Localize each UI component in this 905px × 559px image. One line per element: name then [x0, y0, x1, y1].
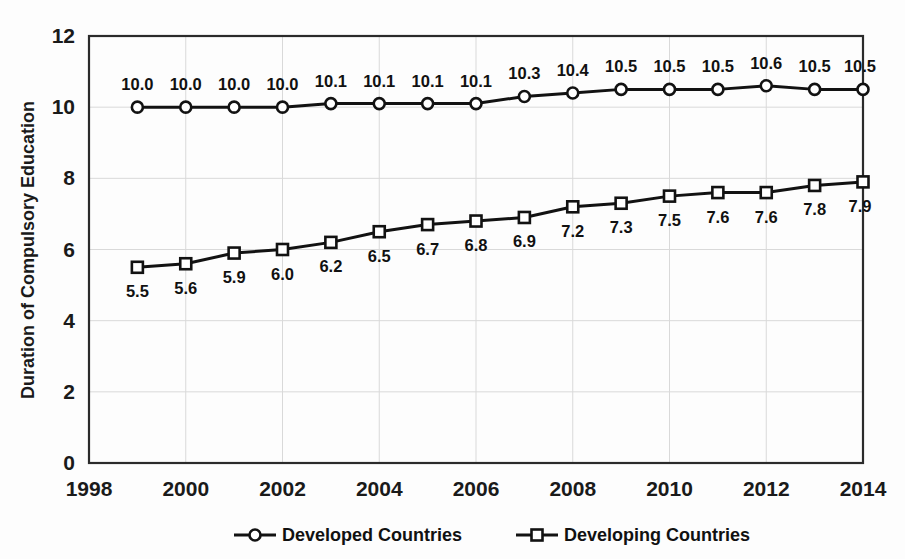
data-point-marker: [761, 187, 772, 198]
y-tick-label: 2: [63, 380, 75, 403]
data-point-label: 5.5: [126, 282, 149, 300]
x-tick-label: 1998: [66, 477, 113, 500]
data-point-marker: [616, 198, 627, 209]
data-point-marker: [712, 84, 723, 95]
data-point-label: 10.3: [508, 64, 540, 82]
legend-label: Developing Countries: [564, 525, 750, 545]
x-tick-label: 2010: [646, 477, 693, 500]
x-tick-label: 2004: [356, 477, 403, 500]
data-point-label: 6.8: [465, 236, 488, 254]
y-tick-label: 8: [63, 166, 75, 189]
data-point-marker: [374, 98, 385, 109]
data-point-label: 10.5: [702, 57, 734, 75]
data-point-marker: [229, 248, 240, 259]
x-tick-label: 2002: [259, 477, 306, 500]
x-tick-label: 2000: [162, 477, 209, 500]
legend-marker: [250, 530, 261, 541]
data-point-marker: [712, 187, 723, 198]
data-point-label: 7.6: [755, 208, 778, 226]
data-point-label: 10.0: [218, 75, 250, 93]
legend-label: Developed Countries: [282, 525, 462, 545]
data-point-label: 6.2: [319, 257, 342, 275]
y-tick-label: 12: [52, 24, 75, 47]
data-point-label: 6.0: [271, 265, 294, 283]
x-tick-label: 2008: [549, 477, 596, 500]
data-point-marker: [422, 98, 433, 109]
data-point-label: 6.7: [416, 240, 439, 258]
data-point-marker: [809, 84, 820, 95]
data-point-marker: [567, 87, 578, 98]
data-point-marker: [519, 212, 530, 223]
data-point-label: 10.5: [653, 57, 685, 75]
data-point-label: 10.0: [170, 75, 202, 93]
data-point-marker: [519, 91, 530, 102]
data-point-label: 10.6: [750, 54, 782, 72]
data-point-marker: [325, 98, 336, 109]
data-point-marker: [374, 226, 385, 237]
data-point-marker: [180, 258, 191, 269]
data-point-label: 10.1: [315, 72, 347, 90]
legend-marker: [532, 530, 543, 541]
x-axis-ticks: 199820002002200420062008201020122014: [66, 477, 887, 500]
data-point-marker: [664, 84, 675, 95]
data-point-marker: [471, 98, 482, 109]
data-point-marker: [132, 262, 143, 273]
data-point-marker: [422, 219, 433, 230]
chart-container: 024681012 199820002002200420062008201020…: [0, 0, 905, 559]
y-tick-label: 6: [63, 238, 75, 261]
data-point-marker: [567, 201, 578, 212]
x-tick-label: 2012: [743, 477, 790, 500]
data-point-label: 7.8: [803, 200, 826, 218]
data-point-marker: [664, 191, 675, 202]
data-point-marker: [616, 84, 627, 95]
data-point-label: 10.5: [605, 57, 637, 75]
data-point-label: 7.3: [610, 218, 633, 236]
data-point-marker: [277, 244, 288, 255]
data-point-label: 7.2: [561, 222, 584, 240]
line-chart: 024681012 199820002002200420062008201020…: [0, 0, 905, 559]
data-point-label: 10.5: [844, 57, 876, 75]
data-point-marker: [761, 80, 772, 91]
x-tick-label: 2006: [453, 477, 500, 500]
data-point-label: 10.1: [460, 72, 492, 90]
data-point-marker: [471, 216, 482, 227]
data-point-label: 10.1: [363, 72, 395, 90]
data-point-marker: [858, 84, 869, 95]
data-point-label: 6.5: [368, 247, 391, 265]
y-axis-title: Duration of Compulsory Education: [18, 101, 38, 399]
data-point-marker: [809, 180, 820, 191]
data-point-marker: [858, 176, 869, 187]
data-point-label: 10.1: [412, 72, 444, 90]
data-point-label: 10.5: [799, 57, 831, 75]
data-point-label: 5.6: [174, 279, 197, 297]
data-point-marker: [325, 237, 336, 248]
data-point-label: 6.9: [513, 232, 536, 250]
data-point-marker: [180, 102, 191, 113]
data-point-label: 10.0: [121, 75, 153, 93]
x-tick-label: 2014: [840, 477, 887, 500]
data-point-marker: [277, 102, 288, 113]
data-point-label: 5.9: [223, 268, 246, 286]
data-point-label: 7.9: [849, 197, 872, 215]
data-point-label: 7.6: [706, 208, 729, 226]
y-tick-label: 10: [52, 95, 75, 118]
data-point-label: 7.5: [658, 211, 681, 229]
data-point-label: 10.4: [557, 61, 590, 79]
y-tick-label: 4: [63, 309, 75, 332]
data-point-marker: [229, 102, 240, 113]
y-tick-label: 0: [63, 451, 75, 474]
data-point-marker: [132, 102, 143, 113]
data-point-label: 10.0: [266, 75, 298, 93]
